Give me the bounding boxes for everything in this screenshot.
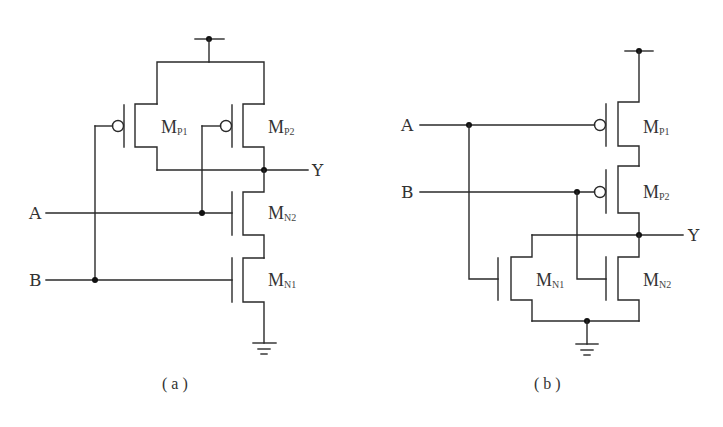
ground-icon bbox=[576, 344, 598, 355]
label-mn2-a: MN2 bbox=[268, 203, 296, 223]
label-mp2-b: MP2 bbox=[643, 182, 670, 202]
transistor-mp2-a bbox=[202, 104, 264, 170]
inverting-bubble-icon bbox=[595, 187, 606, 198]
output-label-y: Y bbox=[311, 160, 324, 180]
inverting-bubble-icon bbox=[595, 120, 606, 131]
circuit-figure: A B Y MP1 MP2 MN2 MN1 ( a ) bbox=[0, 0, 723, 427]
transistor-mn1-a bbox=[232, 258, 264, 343]
ground-icon bbox=[253, 343, 276, 354]
label-mn1-a: MN1 bbox=[268, 270, 296, 290]
panel-b-nor-circuit: A B Y MP1 MP2 MN1 MN2 ( b ) bbox=[400, 48, 700, 393]
transistor-mp1-b bbox=[595, 51, 640, 166]
transistor-mn2-b bbox=[606, 235, 639, 321]
label-mp1-a: MP1 bbox=[161, 117, 188, 137]
label-mn2-b: MN2 bbox=[643, 270, 671, 290]
transistor-mn1-b bbox=[498, 235, 532, 321]
input-label-b: B bbox=[401, 182, 414, 202]
input-label-b: B bbox=[29, 270, 42, 290]
transistor-mn2-a bbox=[232, 170, 264, 258]
input-label-a: A bbox=[28, 203, 42, 223]
caption-a: ( a ) bbox=[162, 375, 188, 393]
inverting-bubble-icon bbox=[221, 121, 232, 132]
inverting-bubble-icon bbox=[113, 121, 124, 132]
label-mp2-a: MP2 bbox=[268, 117, 295, 137]
output-label-y: Y bbox=[687, 225, 700, 245]
label-mn1-b: MN1 bbox=[536, 270, 564, 290]
input-label-a: A bbox=[400, 115, 414, 135]
panel-a-nand-circuit: A B Y MP1 MP2 MN2 MN1 ( a ) bbox=[28, 36, 324, 393]
label-mp1-b: MP1 bbox=[643, 117, 670, 137]
transistor-mp1-a bbox=[95, 104, 157, 170]
caption-b: ( b ) bbox=[534, 375, 561, 393]
transistor-mp2-b bbox=[595, 166, 640, 235]
